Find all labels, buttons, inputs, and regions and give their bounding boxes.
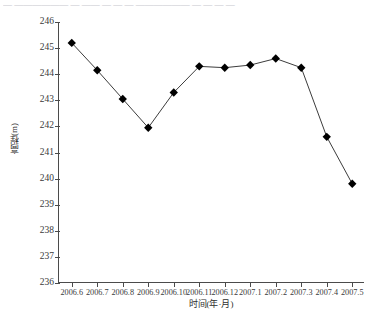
x-axis-tick [174,282,175,287]
y-axis-tick-label: 246 [40,17,54,27]
y-axis-tick-label: 241 [40,148,54,158]
x-axis-tick-label: 2006.12 [211,289,238,297]
plot-area: 2362372382392402412422432442452462006.62… [58,22,364,283]
data-point-marker [272,54,280,62]
x-axis-tick-label: 2006.9 [137,289,160,297]
y-axis-tick-label: 236 [40,278,54,288]
top-clipped-text: — —————— — —— — — — —————— — — — — [3,0,303,7]
x-axis-tick-label: 2006.8 [111,289,134,297]
data-point-marker [323,133,331,141]
y-axis-tick-label: 245 [40,43,54,53]
x-axis-tick [72,282,73,287]
y-axis-tick [55,283,60,284]
x-axis-tick-label: 2006.10 [160,289,187,297]
y-axis-tick-label: 237 [40,252,54,262]
y-axis-tick-label: 244 [40,69,54,79]
y-axis-tick [55,153,60,154]
x-axis-tick [123,282,124,287]
y-axis-tick [55,74,60,75]
x-axis-tick-label: 2007.3 [290,289,313,297]
y-axis-title: 高程(m) [10,123,19,154]
y-axis-tick [55,231,60,232]
x-axis-tick-label: 2007.4 [315,289,338,297]
y-axis-tick-label: 243 [40,96,54,106]
x-axis-tick-label: 2007.1 [239,289,262,297]
y-axis-tick-label: 239 [40,200,54,210]
y-axis-tick [55,22,60,23]
x-axis-tick [327,282,328,287]
series-line [72,43,353,184]
x-axis-tick-label: 2006.6 [60,289,83,297]
data-series-elevation [59,22,365,283]
chart-container: — —————— — —— — — — —————— — — — — 23623… [0,0,385,322]
y-axis-tick-label: 238 [40,226,54,236]
y-axis-tick [55,257,60,258]
y-axis-tick-label: 240 [40,174,54,184]
x-axis-tick [276,282,277,287]
x-axis-tick [250,282,251,287]
x-axis-title: 时间(年·月) [58,300,364,309]
y-axis-tick [55,179,60,180]
y-axis-tick-label: 242 [40,122,54,132]
x-axis-tick-label: 2006.7 [86,289,109,297]
x-axis-tick [352,282,353,287]
x-axis-tick [225,282,226,287]
x-axis-tick [199,282,200,287]
data-point-marker [246,61,254,69]
y-axis-tick [55,126,60,127]
y-axis-tick [55,48,60,49]
y-axis-tick [55,100,60,101]
x-axis-tick [301,282,302,287]
x-axis-tick-label: 2007.2 [264,289,287,297]
x-axis-tick [148,282,149,287]
data-point-marker [221,63,229,71]
x-axis-tick [97,282,98,287]
y-axis-tick [55,205,60,206]
x-axis-tick-label: 2007.5 [341,289,364,297]
data-point-marker [348,180,356,188]
data-point-marker [297,63,305,71]
x-axis-tick-label: 2006.11 [186,289,212,297]
